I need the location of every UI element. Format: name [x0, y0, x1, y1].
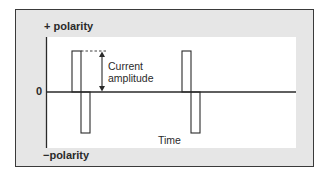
negative-polarity-label: −polarity — [43, 149, 89, 161]
pulse-1-positive — [72, 51, 81, 92]
current-amplitude-label-line1: Current — [108, 60, 143, 72]
amplitude-arrow-icon — [99, 52, 105, 92]
pulse-2-negative — [191, 92, 200, 133]
zero-label: 0 — [36, 85, 42, 97]
pulse-2-positive — [182, 51, 191, 92]
pulse-1-negative — [81, 92, 90, 133]
current-amplitude-label-line2: amplitude — [108, 72, 154, 84]
positive-polarity-label: + polarity — [44, 20, 93, 32]
time-axis-label: Time — [158, 134, 181, 146]
